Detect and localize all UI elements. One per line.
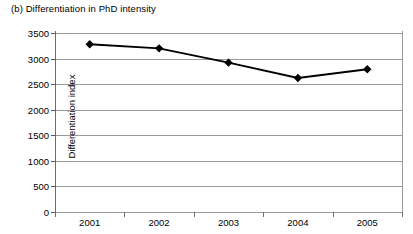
y-tick-label: 3000 (0, 53, 49, 64)
x-tick-mark (194, 212, 195, 217)
y-tick-label: 1500 (0, 130, 49, 141)
gridline (55, 186, 402, 187)
gridline (55, 135, 402, 136)
y-tick-label: 2000 (0, 104, 49, 115)
gridline (55, 110, 402, 111)
gridline (55, 84, 402, 85)
chart-figure: (b) Differentiation in PhD intensity Dif… (0, 0, 413, 234)
x-tick-mark (124, 212, 125, 217)
y-tick-mark (51, 110, 56, 111)
y-tick-mark (51, 33, 56, 34)
y-tick-mark (51, 186, 56, 187)
y-tick-label: 1000 (0, 155, 49, 166)
y-tick-label: 2500 (0, 79, 49, 90)
x-tick-label: 2002 (129, 217, 189, 228)
x-tick-mark (55, 212, 56, 217)
y-axis-title: Differentiation index (66, 57, 77, 177)
y-tick-mark (51, 59, 56, 60)
y-tick-label: 0 (0, 207, 49, 218)
x-tick-mark (263, 212, 264, 217)
plot-area: Differentiation index (55, 33, 402, 212)
x-tick-label: 2001 (60, 217, 120, 228)
gridline (55, 33, 402, 34)
x-tick-label: 2004 (268, 217, 328, 228)
x-tick-mark (402, 212, 403, 217)
chart-title: (b) Differentiation in PhD intensity (11, 3, 156, 14)
y-tick-mark (51, 84, 56, 85)
y-tick-label: 3500 (0, 28, 49, 39)
plot-right-border (402, 31, 403, 214)
y-tick-label: 500 (0, 181, 49, 192)
y-tick-mark (51, 161, 56, 162)
y-tick-mark (51, 135, 56, 136)
gridline (55, 59, 402, 60)
gridline (55, 161, 402, 162)
x-tick-label: 2003 (199, 217, 259, 228)
x-tick-mark (333, 212, 334, 217)
gridline (55, 212, 402, 213)
x-tick-label: 2005 (337, 217, 397, 228)
